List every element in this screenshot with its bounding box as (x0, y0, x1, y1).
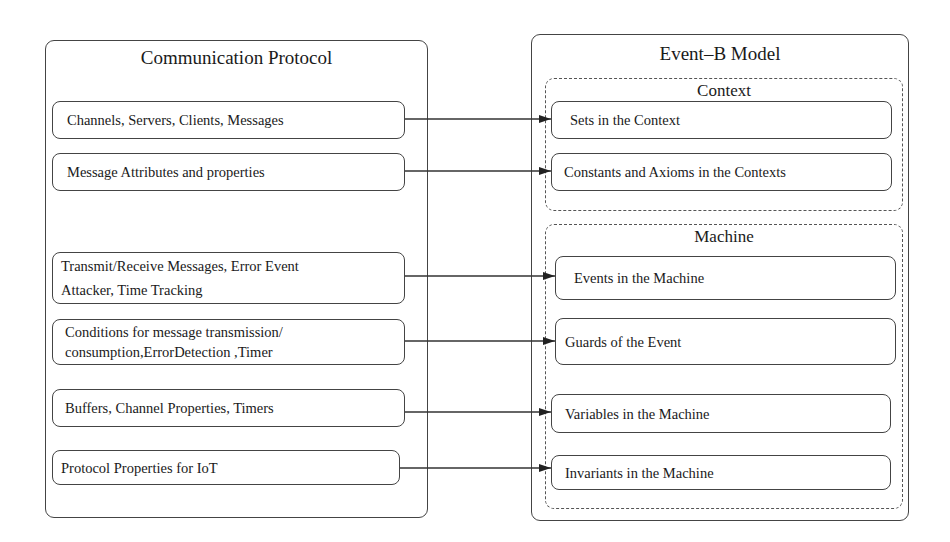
mapping-arrows (0, 0, 950, 542)
